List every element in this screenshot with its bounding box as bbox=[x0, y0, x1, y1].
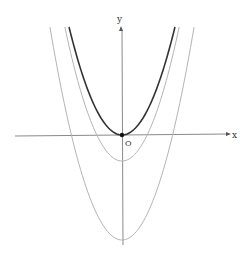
origin-label: O bbox=[125, 139, 132, 148]
y-axis bbox=[122, 30, 123, 245]
parabola-figure: x y O bbox=[0, 0, 250, 257]
y-axis-label: y bbox=[116, 14, 123, 24]
x-axis-label: x bbox=[232, 130, 237, 140]
origin-point bbox=[120, 133, 124, 137]
y-axis-arrow-icon bbox=[119, 26, 123, 31]
chart-svg: x y O bbox=[0, 0, 250, 257]
x-axis-arrow-icon bbox=[226, 132, 231, 136]
